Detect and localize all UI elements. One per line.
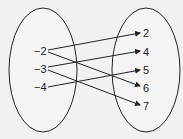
range-value: 7 bbox=[143, 100, 149, 112]
range-value: 2 bbox=[143, 27, 149, 39]
domain-value: −2 bbox=[34, 45, 47, 57]
range-value: 5 bbox=[143, 64, 149, 76]
range-value: 6 bbox=[143, 82, 149, 94]
mapping-diagram: −2 −3 −4 2 4 5 6 7 bbox=[0, 0, 183, 139]
domain-value: −3 bbox=[34, 63, 47, 75]
domain-value: −4 bbox=[34, 81, 47, 93]
range-value: 4 bbox=[143, 46, 149, 58]
